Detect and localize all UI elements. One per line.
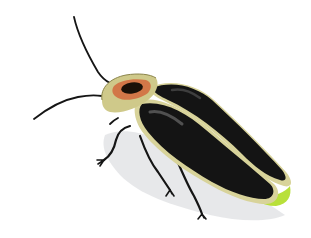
antennae (34, 17, 110, 119)
firefly-illustration: Illustration of a firefly beetle on a wh… (0, 0, 311, 238)
